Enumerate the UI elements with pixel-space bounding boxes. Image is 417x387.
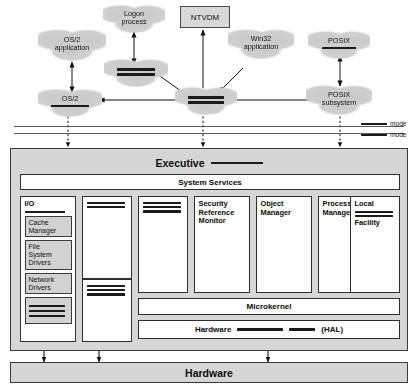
user-mode-label: mode [361,120,407,127]
column-heading-line2: Facility [355,219,396,228]
redacted-label [289,328,315,330]
redacted-label [361,123,387,125]
redacted-label [188,96,224,99]
executive-title: Executive [11,157,407,169]
column-heading-line1: Local [355,200,396,209]
cloud-win32-application[interactable]: Win32 application [228,26,294,60]
cloud-label-line2: application [244,43,278,51]
redacted-label [117,73,155,75]
redacted-label [211,162,263,164]
cloud-os2-application[interactable]: OS/2 application [38,26,106,62]
redacted-label [355,215,393,217]
redacted-label [29,315,65,317]
hal-prefix: Hardware [195,325,231,334]
kernel-mode-boundary-line [14,133,404,134]
column-security-reference-monitor[interactable]: SecurityReferenceMonitor [194,196,250,293]
redacted-label [87,206,125,208]
column-object-manager[interactable]: ObjectManager [256,196,312,293]
redacted-label [143,206,181,208]
figure-canvas: OS/2 application OS/2 Logon process Win3… [0,0,417,387]
column-heading: I/O [25,200,72,209]
redacted-label [29,310,65,312]
redacted-label [322,47,356,49]
hal-bar[interactable]: Hardware (HAL) [138,320,400,339]
system-services-label: System Services [178,178,242,187]
cloud-label-line1: POSIX [328,37,350,45]
cloud-posix-subsystem[interactable]: POSIX subsystem [306,82,372,116]
cloud-posix-application[interactable]: POSIX [308,28,370,60]
executive-panel: Executive System Services I/O CacheManag… [10,148,408,351]
subbox-cache-manager[interactable]: CacheManager [25,216,72,238]
cloud-label-line1: OS/2 [62,95,78,103]
user-mode-boundary-line [14,126,404,127]
column-2-lower[interactable] [82,279,132,342]
redacted-label [29,305,65,307]
cloud-label-line2: application [55,44,89,52]
system-services-bar[interactable]: System Services [20,174,400,190]
subbox-file-system-drivers[interactable]: FileSystemDrivers [25,240,72,269]
mode-text: mode [390,120,407,127]
column-io-manager[interactable]: I/O CacheManager FileSystemDrivers Netwo… [20,196,76,342]
hardware-bar[interactable]: Hardware [10,362,408,383]
redacted-label [188,101,224,104]
redacted-label [87,285,125,287]
ntvdm-box[interactable]: NTVDM [180,6,230,28]
redacted-label [87,289,125,291]
cloud-logon-process[interactable]: Logon process [103,2,165,34]
cloud-security-subsystem[interactable] [104,56,168,88]
redacted-label [355,211,393,213]
redacted-label [143,202,181,204]
redacted-label [361,134,387,136]
column-3[interactable] [138,196,188,293]
mode-text: mode [390,131,407,138]
hal-suffix: (HAL) [321,325,343,334]
column-local-procedure-call-facility[interactable]: Local Facility [350,196,400,293]
microkernel-label: Microkernel [247,302,292,311]
redacted-label [25,211,65,213]
ntvdm-label: NTVDM [191,13,219,22]
subbox-network-drivers[interactable]: NetworkDrivers [25,273,72,295]
redacted-label [51,105,89,107]
redacted-label [237,328,283,330]
column-2-upper[interactable] [82,196,132,279]
redacted-label [117,68,155,70]
redacted-label [87,202,125,204]
microkernel-bar[interactable]: Microkernel [138,298,400,315]
hardware-label: Hardware [185,367,233,379]
cloud-win32-subsystem[interactable] [175,84,237,116]
kernel-mode-label: mode [361,131,407,138]
redacted-label [87,293,125,295]
subbox-redacted[interactable] [25,297,72,324]
executive-title-text: Executive [155,157,204,169]
redacted-label [143,210,181,212]
cloud-label-line2: process [121,18,146,26]
cloud-label-line2: subsystem [322,99,356,107]
cloud-os2-subsystem[interactable]: OS/2 [38,86,102,118]
